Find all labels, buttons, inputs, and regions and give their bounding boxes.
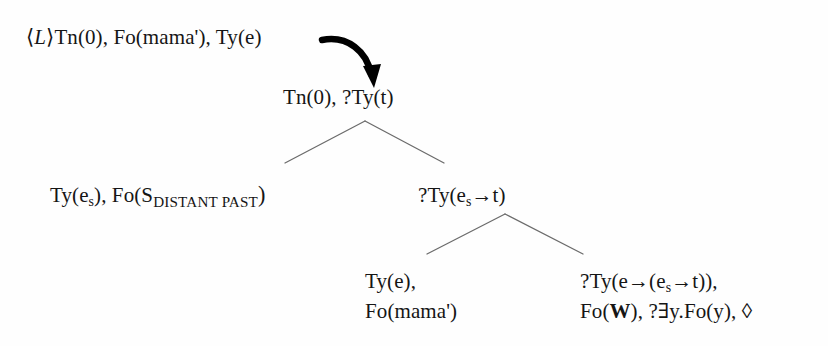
node-leaf-left: Ty(e), Fo(mama') [365, 266, 457, 326]
leaf-right-line1-prefix: ?Ty(e→(e [580, 269, 666, 293]
leaf-left-line2: Fo(mama') [365, 296, 457, 326]
node-root: Tn(0), ?Ty(t) [283, 82, 394, 112]
development-arrow [322, 39, 381, 88]
leaf-right-line1-suffix: →t)), [671, 269, 718, 293]
right-daughter-suffix: →t) [472, 183, 506, 207]
node-root-annotation: ⟨L⟩Tn(0), Fo(mama'), Ty(e) [26, 22, 262, 52]
left-daughter-suffix: ) [258, 182, 266, 207]
leaf-left-line1: Ty(e), [365, 269, 416, 293]
node-right-daughter: ?Ty(es→t) [418, 180, 506, 210]
root-annotation-text: Tn(0), Fo(mama'), Ty(e) [54, 25, 261, 49]
modality-label: L [34, 25, 46, 49]
right-daughter-prefix: ?Ty(e [418, 183, 466, 207]
branch-2-right [505, 214, 583, 254]
left-daughter-prefix: Ty(e [50, 183, 89, 207]
figure-canvas: ⟨L⟩Tn(0), Fo(mama'), Ty(e) Tn(0), ?Ty(t)… [0, 0, 828, 346]
branch-1-left [285, 121, 365, 163]
branch-2-left [427, 214, 505, 254]
leaf-right-metavariable: W [609, 299, 630, 323]
leaf-right-line2-prefix: Fo( [580, 299, 609, 323]
leaf-right-line2: Fo(W), ?∃y.Fo(y), ◊ [580, 296, 752, 326]
left-daughter-smallcaps-subscript: DISTANT PAST [153, 194, 258, 210]
node-leaf-right: ?Ty(e→(es→t)), Fo(W), ?∃y.Fo(y), ◊ [580, 266, 752, 326]
branch-1-right [365, 121, 444, 163]
leaf-right-line2-suffix: ), ?∃y.Fo(y), ◊ [631, 299, 753, 323]
node-left-daughter: Ty(es), Fo(SDISTANT PAST) [50, 180, 266, 210]
leaf-right-line1: ?Ty(e→(es→t)), [580, 269, 718, 293]
development-arrow-curve [322, 39, 371, 74]
left-daughter-middle: ), Fo(S [94, 183, 153, 207]
node-root-label: Tn(0), ?Ty(t) [283, 85, 394, 109]
